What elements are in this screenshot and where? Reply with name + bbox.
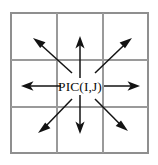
center-label: PIC(I,J) — [58, 79, 102, 94]
arrow-north-west-shaft — [40, 44, 73, 74]
arrow-north — [75, 36, 84, 78]
arrow-east — [104, 81, 140, 91]
arrow-south-east — [95, 99, 128, 131]
arrow-south-west — [38, 99, 72, 133]
arrow-south-east-shaft — [95, 99, 122, 126]
arrow-west — [21, 81, 61, 91]
figure-container: PIC(I,J) eight-neighbour direction diagr… — [0, 0, 158, 165]
arrow-south — [75, 95, 84, 134]
neighborhood-diagram: PIC(I,J) eight-neighbour direction diagr… — [0, 0, 158, 165]
arrow-north-east-shaft — [95, 44, 126, 73]
arrow-north-east — [95, 38, 132, 73]
arrow-north-west — [33, 38, 72, 73]
arrow-south-west-shaft — [45, 99, 73, 128]
